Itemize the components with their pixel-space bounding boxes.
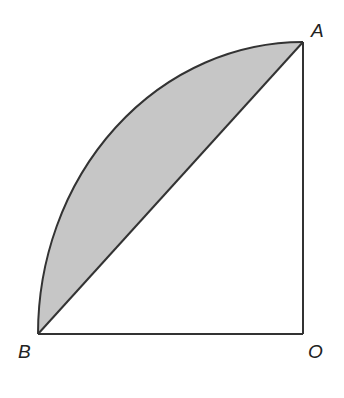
geometry-diagram: A B O <box>0 0 344 398</box>
label-B: B <box>18 341 31 362</box>
label-O: O <box>308 341 323 362</box>
label-A: A <box>310 20 324 41</box>
